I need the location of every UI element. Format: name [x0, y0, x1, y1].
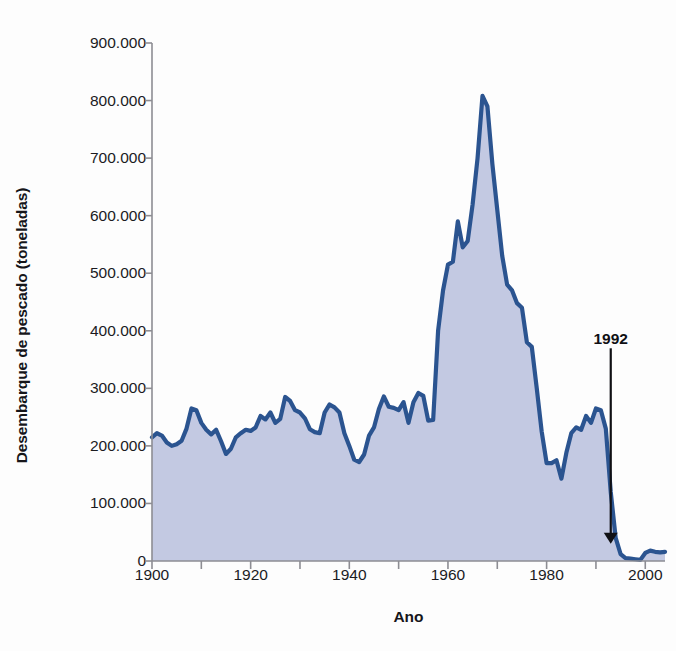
x-axis-tick-label: 1980 [529, 566, 563, 584]
x-axis-tick-label: 1920 [233, 566, 267, 584]
x-axis-tick-label: 2000 [628, 566, 662, 584]
x-axis-ticks [152, 561, 645, 569]
chart-container: Desembarque de pescado (toneladas) 0100.… [0, 0, 676, 651]
area-series-layer [152, 96, 665, 561]
area-fill [152, 96, 665, 561]
y-axis-ticks [145, 43, 152, 561]
x-axis-title: Ano [152, 608, 665, 626]
annotation-label-1992: 1992 [593, 330, 627, 348]
x-axis-tick-label: 1940 [332, 566, 366, 584]
x-axis-tick-label: 1960 [431, 566, 465, 584]
chart-plot [0, 0, 676, 651]
x-axis-tick-label: 1900 [135, 566, 169, 584]
